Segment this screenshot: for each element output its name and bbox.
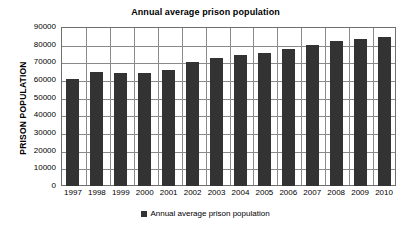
bar-slot [157,27,181,186]
x-axis-tick-label: 2010 [372,188,396,198]
bar-slot [348,27,372,186]
x-axis-tick-label: 2005 [252,188,276,198]
bar-slot [205,27,229,186]
y-axis-tick-label: 0 [12,182,56,190]
bar[interactable] [354,39,367,186]
bar[interactable] [138,73,151,186]
bar-slot [300,27,324,186]
bar[interactable] [234,55,247,186]
bar[interactable] [210,58,223,186]
x-axis-tick-label: 1997 [61,188,85,198]
bar-slot [276,27,300,186]
bar[interactable] [66,79,79,186]
bar[interactable] [258,53,271,186]
x-axis-tick-label: 1999 [109,188,133,198]
bar-slot [61,27,85,186]
legend-swatch-icon [141,211,147,217]
bar-slot [85,27,109,186]
bar-chart: Annual average prison population PRISON … [0,0,411,231]
x-axis-tick-label: 2000 [133,188,157,198]
legend-label: Annual average prison population [150,209,269,219]
y-axis-tick-label: 90000 [12,23,56,31]
x-axis-tick-label: 2007 [300,188,324,198]
x-axis-tick-label: 2001 [157,188,181,198]
bar[interactable] [282,49,295,186]
bar-slot [133,27,157,186]
x-axis-tick-label: 2002 [181,188,205,198]
y-axis-tick-label: 30000 [12,129,56,137]
y-axis-tick-label: 40000 [12,111,56,119]
bar-slot [229,27,253,186]
x-axis-tick-label: 2004 [229,188,253,198]
bar[interactable] [330,41,343,186]
chart-title: Annual average prison population [0,7,411,18]
bar[interactable] [378,37,391,186]
y-axis-tick-label: 20000 [12,147,56,155]
bar-slot [372,27,396,186]
y-axis-tick-label: 80000 [12,41,56,49]
x-axis-tick-labels: 1997199819992000200120022003200420052006… [61,188,396,200]
bar[interactable] [114,73,127,186]
x-axis-tick-label: 2008 [324,188,348,198]
bar-slot [181,27,205,186]
x-axis-tick-label: 1998 [85,188,109,198]
y-axis-tick-label: 10000 [12,164,56,172]
bar[interactable] [306,45,319,186]
y-axis-title: PRISON POPULATION [18,33,28,183]
bar[interactable] [162,70,175,186]
y-axis-tick-label: 60000 [12,76,56,84]
x-axis-tick-label: 2009 [348,188,372,198]
bar[interactable] [90,72,103,186]
y-axis-tick-label: 70000 [12,58,56,66]
x-axis-tick-label: 2006 [276,188,300,198]
chart-legend: Annual average prison population [0,209,411,219]
x-axis-tick-label: 2003 [205,188,229,198]
bar-slot [324,27,348,186]
bar-slot [109,27,133,186]
bar[interactable] [186,62,199,186]
bars-layer [61,27,396,186]
bar-slot [252,27,276,186]
y-axis-tick-label: 50000 [12,94,56,102]
